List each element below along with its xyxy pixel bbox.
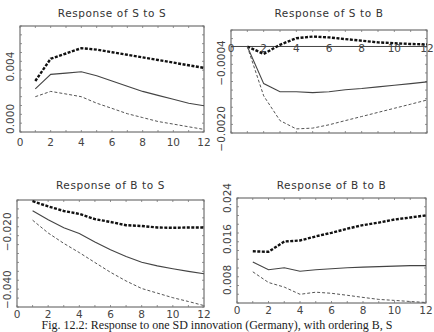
x-tick-label: 10 bbox=[167, 136, 180, 148]
chart-panel-1: Response of S to S0246810120.0000.004 bbox=[4, 7, 211, 148]
impulse-response-line bbox=[35, 72, 204, 106]
plot-frame bbox=[237, 198, 426, 303]
impulse-response-line bbox=[33, 211, 204, 274]
y-tick-label: −0.040 bbox=[1, 270, 13, 309]
y-tick-label: 0.004 bbox=[4, 51, 16, 81]
chart-panel-2: Response of S to B024681012−0.0004−0.002… bbox=[215, 7, 434, 152]
plot-frame bbox=[17, 200, 204, 307]
x-tick-label: 0 bbox=[228, 42, 235, 54]
panel-title: Response of B to B bbox=[277, 179, 387, 191]
chart-panel-4: Response of B to B0246810120.0080.0160.0… bbox=[221, 179, 433, 316]
upper-confidence-band bbox=[33, 201, 204, 228]
upper-confidence-band bbox=[35, 48, 204, 81]
impulse-response-figure: Response of S to S0246810120.0000.004Res… bbox=[0, 0, 434, 332]
x-tick-label: 6 bbox=[326, 42, 333, 54]
x-tick-label: 6 bbox=[328, 304, 335, 316]
y-tick-label: −0.0004 bbox=[215, 40, 227, 86]
y-tick-label: 0.024 bbox=[221, 183, 233, 213]
x-tick-label: 2 bbox=[265, 304, 272, 316]
upper-confidence-band bbox=[253, 215, 426, 251]
y-tick-label: 0.016 bbox=[221, 224, 233, 254]
x-tick-label: 12 bbox=[197, 136, 210, 148]
lower-confidence-band bbox=[33, 220, 204, 305]
panel-title: Response of S to B bbox=[274, 7, 383, 19]
x-tick-label: 4 bbox=[78, 136, 85, 148]
x-tick-label: 0 bbox=[17, 136, 24, 148]
chart-panel-3: Response of B to S024681012−0.020−0.040 bbox=[1, 179, 211, 320]
x-tick-label: 0 bbox=[234, 304, 241, 316]
x-tick-label: 4 bbox=[297, 304, 304, 316]
x-tick-label: 6 bbox=[109, 136, 116, 148]
figure-caption: Fig. 12.2: Response to one SD innovation… bbox=[0, 318, 434, 332]
x-tick-label: 8 bbox=[360, 304, 367, 316]
y-tick-label: 0.000 bbox=[4, 104, 16, 134]
y-tick-label: 0.008 bbox=[221, 265, 233, 295]
y-tick-label: −0.020 bbox=[1, 212, 13, 251]
x-tick-label: 12 bbox=[419, 304, 432, 316]
impulse-response-line bbox=[253, 262, 426, 271]
x-tick-label: 4 bbox=[293, 42, 300, 54]
y-tick-label: −0.0020 bbox=[215, 106, 227, 152]
lower-confidence-band bbox=[253, 272, 426, 303]
panel-title: Response of B to S bbox=[56, 179, 165, 191]
x-tick-label: 10 bbox=[388, 304, 401, 316]
lower-confidence-band bbox=[247, 47, 427, 129]
x-tick-label: 10 bbox=[388, 42, 401, 54]
x-tick-label: 8 bbox=[358, 42, 365, 54]
x-tick-label: 2 bbox=[47, 136, 54, 148]
panel-title: Response of S to S bbox=[58, 7, 167, 19]
plot-frame bbox=[20, 26, 204, 132]
lower-confidence-band bbox=[35, 91, 204, 129]
x-tick-label: 8 bbox=[139, 136, 146, 148]
